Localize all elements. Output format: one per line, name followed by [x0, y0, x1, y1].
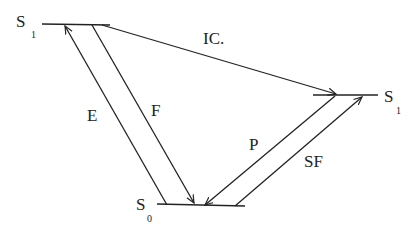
label-s1-left-subscript: 1 — [31, 29, 36, 40]
label-s1-right-subscript: 1 — [396, 105, 401, 116]
label-s1-right: S — [384, 87, 393, 106]
label-excitation: E — [87, 106, 97, 125]
label-s0-subscript: 0 — [147, 213, 152, 224]
label-s0: S — [136, 195, 145, 214]
label-s1-left: S — [16, 12, 25, 31]
label-secondary: SF — [304, 152, 323, 171]
label-intersystem-crossing: IC. — [203, 29, 224, 48]
energy-level-diagram: S 1 S 1 S 0 E F IC. P SF — [0, 0, 416, 230]
level-s0 — [157, 204, 245, 206]
label-fluorescence: F — [151, 101, 160, 120]
level-s1-left — [42, 24, 110, 25]
arrow-phosphorescence — [205, 96, 335, 205]
label-phosphorescence: P — [249, 135, 258, 154]
arrow-fluorescence — [92, 25, 194, 203]
